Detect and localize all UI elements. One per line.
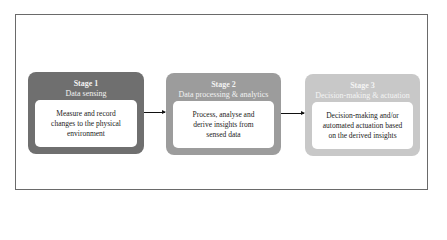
- stage-3-name: Decision-making & actuation: [305, 91, 420, 101]
- stage-1-box: Stage 1 Data sensing Measure and record …: [28, 72, 144, 154]
- stage-3-header: Stage 3 Decision-making & actuation: [305, 74, 420, 101]
- stage-2-box: Stage 2 Data processing & analytics Proc…: [166, 73, 281, 155]
- stage-3-description: Decision-making and/or automated actuati…: [312, 102, 413, 149]
- stage-1-header: Stage 1 Data sensing: [28, 72, 144, 99]
- stage-2-description: Process, analyse and derive insights fro…: [173, 101, 274, 148]
- stage-2-header: Stage 2 Data processing & analytics: [166, 73, 281, 100]
- stage-3-number: Stage 3: [305, 81, 420, 91]
- arrow-right-icon: [144, 112, 165, 113]
- stage-3-box: Stage 3 Decision-making & actuation Deci…: [305, 74, 420, 156]
- stage-2-number: Stage 2: [166, 80, 281, 90]
- stage-2-name: Data processing & analytics: [166, 90, 281, 100]
- stage-1-description: Measure and record changes to the physic…: [35, 100, 137, 147]
- stage-1-number: Stage 1: [28, 79, 144, 89]
- stage-1-name: Data sensing: [28, 89, 144, 99]
- arrow-right-icon: [281, 113, 304, 114]
